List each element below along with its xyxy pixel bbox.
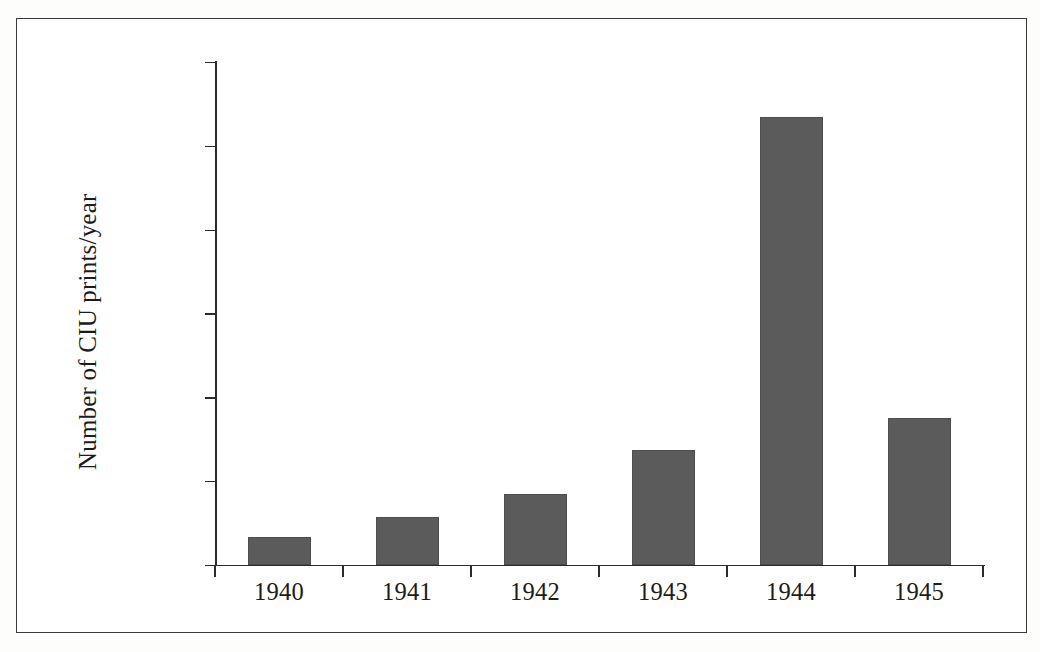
y-axis-tick — [205, 397, 216, 399]
x-axis-label-1945: 1945 — [855, 578, 983, 606]
y-axis-tick — [205, 313, 216, 315]
y-axis-tick — [205, 481, 216, 483]
bar-1943 — [632, 450, 695, 565]
x-axis-tick — [854, 565, 856, 577]
x-axis-label-1941: 1941 — [343, 578, 471, 606]
bar-1944 — [760, 117, 823, 565]
x-axis-label-1943: 1943 — [599, 578, 727, 606]
y-axis-tick — [205, 146, 216, 148]
bar-1940 — [248, 537, 311, 566]
x-axis-line — [215, 565, 985, 567]
x-axis-tick — [982, 565, 984, 577]
bar-1942 — [504, 494, 567, 565]
x-axis-tick — [470, 565, 472, 577]
y-axis-title: Number of CIU prints/year — [74, 194, 102, 470]
x-axis-tick — [598, 565, 600, 577]
page: Number of CIU prints/year 05000010000015… — [0, 0, 1040, 652]
bar-1945 — [888, 418, 951, 565]
x-axis-label-1940: 1940 — [215, 578, 343, 606]
x-axis-tick — [726, 565, 728, 577]
x-axis-tick — [342, 565, 344, 577]
x-axis-label-1942: 1942 — [471, 578, 599, 606]
y-axis-tick — [205, 230, 216, 232]
x-axis-tick — [214, 565, 216, 577]
y-axis-tick — [205, 62, 216, 64]
bar-1941 — [376, 517, 439, 565]
x-axis-label-1944: 1944 — [727, 578, 855, 606]
bar-chart: Number of CIU prints/year 05000010000015… — [0, 0, 1040, 652]
